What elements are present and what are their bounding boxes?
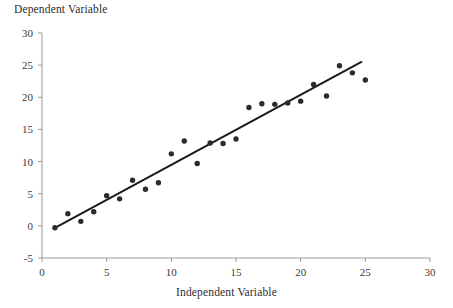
data-point <box>233 136 238 141</box>
x-tick-label: 30 <box>425 266 437 278</box>
data-points <box>52 63 368 230</box>
y-tick-label: 30 <box>22 27 34 39</box>
y-tick-label: 25 <box>22 59 34 71</box>
data-point <box>311 82 316 87</box>
data-point <box>65 211 70 216</box>
data-point <box>220 141 225 146</box>
y-tick-label: 0 <box>28 220 34 232</box>
x-tick-label: 5 <box>104 266 110 278</box>
data-point <box>52 225 57 230</box>
data-point <box>350 70 355 75</box>
data-point <box>91 209 96 214</box>
data-point <box>259 101 264 106</box>
data-point <box>130 178 135 183</box>
data-point <box>143 187 148 192</box>
plot-canvas: -5051015202530 051015202530 <box>0 0 453 308</box>
y-tick-label: 15 <box>22 123 34 135</box>
x-tick-label: 0 <box>39 266 45 278</box>
data-point <box>246 105 251 110</box>
data-point <box>272 102 277 107</box>
data-point <box>298 98 303 103</box>
y-tick-label: 10 <box>22 156 34 168</box>
y-tick-label: 20 <box>22 91 34 103</box>
y-tick-label: 5 <box>28 188 34 200</box>
data-point <box>324 93 329 98</box>
data-point <box>182 138 187 143</box>
x-tick-label: 20 <box>295 266 307 278</box>
scatter-plot-figure: Dependent Variable -5051015202530 051015… <box>0 0 453 308</box>
data-point <box>207 140 212 145</box>
data-point <box>337 63 342 68</box>
x-tick-label: 25 <box>360 266 372 278</box>
y-tick-label: -5 <box>24 252 34 264</box>
data-point <box>104 193 109 198</box>
data-point <box>78 219 83 224</box>
data-point <box>169 151 174 156</box>
x-axis-ticks: 051015202530 <box>39 258 436 278</box>
data-point <box>363 77 368 82</box>
axes <box>42 33 430 258</box>
x-tick-label: 10 <box>166 266 178 278</box>
data-point <box>285 100 290 105</box>
y-axis-ticks: -5051015202530 <box>22 27 42 264</box>
regression-line <box>55 62 362 228</box>
data-point <box>117 196 122 201</box>
data-point <box>195 161 200 166</box>
x-axis-title: Independent Variable <box>0 286 453 298</box>
x-tick-label: 15 <box>231 266 243 278</box>
data-point <box>156 180 161 185</box>
trend-line <box>55 62 362 228</box>
